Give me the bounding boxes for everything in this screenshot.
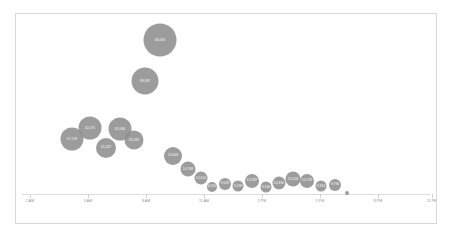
bubble-value-label: 32,071 — [85, 126, 95, 129]
bubble-point[interactable]: 9,164 — [261, 182, 272, 193]
bubble-point[interactable]: 12,139 — [300, 174, 314, 188]
x-tick-label: 8 AM — [142, 200, 150, 203]
bubble-point[interactable] — [345, 191, 349, 195]
bubble-value-label: 13,649 — [168, 154, 178, 157]
bubble-value-label: 14,768 — [183, 167, 193, 170]
plot-area: 2 AM5 AM8 AM11 AM2 PM5 PM8 PM11 PM 27,17… — [16, 14, 436, 223]
bubble-point[interactable]: 32,071 — [79, 117, 102, 140]
bubble-point[interactable]: 9,354 — [316, 181, 327, 192]
x-tick-label: 5 AM — [84, 200, 92, 203]
bubble-value-label: 9,794 — [331, 183, 339, 186]
x-tick-mark — [432, 194, 433, 198]
bubble-point[interactable]: 25,592 — [125, 131, 144, 150]
bubble-value-label: 25,592 — [129, 138, 139, 141]
bubble-value-label: 32,046 — [115, 127, 125, 130]
bubble-point[interactable]: 46,090 — [144, 24, 177, 57]
x-tick-mark — [146, 194, 147, 198]
bubble-value-label: 46,090 — [155, 38, 165, 41]
bubble-value-label: 9,354 — [317, 184, 325, 187]
bubble-value-label: 6,911 — [208, 185, 216, 188]
x-tick-mark — [262, 194, 263, 198]
chart-screenshot: 2 AM5 AM8 AM11 AM2 PM5 PM8 PM11 PM 27,17… — [0, 0, 461, 238]
x-tick-label: 2 AM — [26, 200, 34, 203]
x-tick-label: 11 PM — [427, 200, 436, 203]
x-tick-mark — [88, 194, 89, 198]
bubble-point[interactable]: 9,199 — [233, 181, 244, 192]
x-tick-mark — [204, 194, 205, 198]
bubble-point[interactable]: 6,911 — [207, 182, 217, 192]
bubble-value-label: 10,614 — [196, 176, 206, 179]
bubble-point[interactable]: 39,367 — [132, 68, 159, 95]
x-axis-line — [22, 194, 430, 195]
bubble-point[interactable]: 12,987 — [245, 174, 259, 188]
bubble-value-label: 39,367 — [140, 79, 150, 82]
bubble-value-label: 9,029 — [221, 182, 229, 185]
bubble-point[interactable]: 10,614 — [195, 172, 208, 185]
bubble-value-label: 9,164 — [262, 185, 270, 188]
bubble-point[interactable]: 9,029 — [219, 178, 231, 190]
bubble-value-label: 27,176 — [67, 137, 77, 140]
chart-frame: 2 AM5 AM8 AM11 AM2 PM5 PM8 PM11 PM 27,17… — [15, 13, 437, 224]
bubble-value-label: 12,987 — [247, 179, 257, 182]
bubble-value-label: 9,199 — [234, 184, 242, 187]
bubble-point[interactable]: 25,267 — [96, 138, 116, 158]
bubble-value-label: 13,204 — [288, 177, 298, 180]
x-tick-label: 11 AM — [199, 200, 209, 203]
bubble-value-label: 25,267 — [101, 146, 111, 149]
x-tick-mark — [30, 194, 31, 198]
bubble-point[interactable]: 13,649 — [164, 147, 182, 165]
x-tick-label: 5 PM — [316, 200, 324, 203]
x-tick-label: 2 PM — [258, 200, 266, 203]
bubble-point[interactable]: 10,830 — [273, 177, 286, 190]
bubble-point[interactable]: 14,768 — [181, 162, 196, 177]
x-tick-mark — [320, 194, 321, 198]
bubble-point[interactable]: 13,204 — [286, 172, 301, 187]
bubble-value-label: 12,139 — [302, 179, 312, 182]
x-tick-mark — [378, 194, 379, 198]
bubble-value-label: 10,830 — [274, 181, 284, 184]
x-tick-label: 8 PM — [374, 200, 382, 203]
bubble-point[interactable]: 9,794 — [329, 179, 341, 191]
